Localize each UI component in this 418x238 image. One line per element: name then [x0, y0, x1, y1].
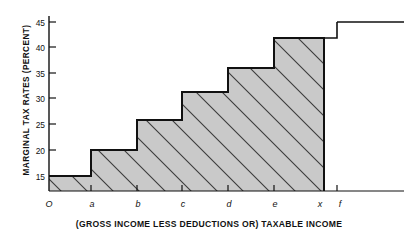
tax-rate-step-chart: MARGINAL TAX RATES (PERCENT) (GROSS INCO…	[0, 0, 418, 238]
chart-canvas	[0, 0, 418, 238]
y-axis	[49, 16, 56, 191]
